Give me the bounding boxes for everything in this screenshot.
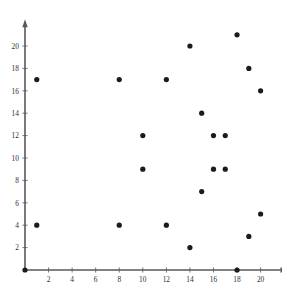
x-tick-label: 16: [210, 275, 218, 284]
y-tick-label: 18: [12, 64, 20, 73]
x-tick-label: 4: [70, 275, 74, 284]
data-point-hit-area[interactable]: [113, 74, 125, 86]
y-tick-label: 6: [15, 199, 19, 208]
data-point-hit-area[interactable]: [207, 130, 219, 142]
y-tick-label: 20: [12, 42, 20, 51]
data-point-hit-area[interactable]: [137, 130, 149, 142]
data-point-hit-area[interactable]: [19, 264, 31, 276]
data-point-hit-area[interactable]: [255, 208, 267, 220]
data-point-hit-area[interactable]: [231, 264, 243, 276]
x-tick-label: 6: [94, 275, 98, 284]
data-point-hit-area[interactable]: [255, 85, 267, 97]
x-tick-label: 18: [233, 275, 241, 284]
data-point-hit-area[interactable]: [31, 74, 43, 86]
data-point-hit-area[interactable]: [243, 230, 255, 242]
data-point-hit-area[interactable]: [113, 219, 125, 231]
x-tick-label: 10: [139, 275, 147, 284]
x-axis-tick-labels: 2468101214161820: [47, 275, 265, 284]
y-tick-label: 14: [12, 109, 20, 118]
y-tick-label: 8: [15, 176, 19, 185]
data-point-hit-area[interactable]: [184, 242, 196, 254]
x-tick-label: 8: [117, 275, 121, 284]
y-tick-label: 10: [12, 154, 20, 163]
y-tick-label: 16: [12, 87, 20, 96]
x-tick-label: 12: [163, 275, 171, 284]
y-axis-arrow-icon: [22, 19, 27, 27]
x-tick-label: 20: [257, 275, 265, 284]
y-axis-tick-labels: 2468101214161820: [12, 42, 20, 253]
x-tick-label: 14: [186, 275, 194, 284]
data-point-hit-area[interactable]: [31, 219, 43, 231]
data-point-hit-area[interactable]: [219, 130, 231, 142]
data-point-hit-area[interactable]: [184, 40, 196, 52]
plot-canvas: 2468101214161820 2468101214161820: [0, 0, 282, 292]
data-point-hit-area[interactable]: [160, 74, 172, 86]
y-tick-label: 4: [15, 221, 19, 230]
data-point-hit-area[interactable]: [231, 29, 243, 41]
y-tick-label: 2: [15, 243, 19, 252]
data-point-hit-area[interactable]: [160, 219, 172, 231]
x-tick-label: 2: [47, 275, 51, 284]
data-point-hit-area[interactable]: [219, 163, 231, 175]
data-point-hit-area[interactable]: [196, 107, 208, 119]
x-axis-arrow-icon: [281, 267, 282, 272]
data-point-hit-area[interactable]: [207, 163, 219, 175]
data-point-hit-area[interactable]: [196, 186, 208, 198]
y-tick-label: 12: [12, 131, 20, 140]
data-point-hit-area[interactable]: [243, 62, 255, 74]
scatter-plot-figure: 2468101214161820 2468101214161820: [0, 0, 282, 292]
data-point-hit-area[interactable]: [137, 163, 149, 175]
data-point-series: [19, 29, 267, 276]
